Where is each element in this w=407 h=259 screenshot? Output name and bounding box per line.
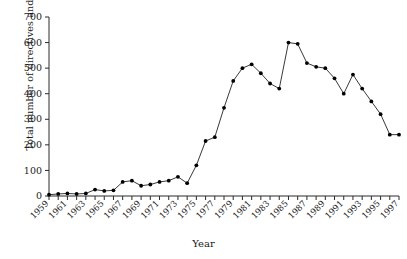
x-tick-label: 1983 — [249, 198, 271, 220]
x-tick-label: 1981 — [231, 198, 253, 220]
data-series-line — [49, 43, 399, 195]
data-point — [102, 189, 106, 193]
data-point — [397, 133, 401, 137]
data-point — [112, 188, 116, 192]
data-point — [121, 180, 125, 184]
data-point — [287, 41, 291, 45]
data-point — [333, 76, 337, 80]
data-series-markers — [47, 41, 401, 197]
x-tick-label: 1973 — [157, 198, 179, 220]
data-point — [277, 87, 281, 91]
data-point — [130, 179, 134, 183]
data-point — [185, 181, 189, 185]
x-tick-label: 1975 — [175, 198, 197, 220]
data-point — [93, 188, 97, 192]
x-tick-label: 1997 — [378, 198, 400, 220]
x-tick-label: 1991 — [323, 198, 345, 220]
x-tick-label: 1977 — [194, 198, 216, 220]
y-tick-label: 200 — [24, 139, 42, 150]
data-point — [342, 92, 346, 96]
x-tick-label: 1969 — [120, 198, 142, 220]
data-point — [213, 135, 217, 139]
y-tick-label: 600 — [24, 37, 42, 48]
x-tick-label: 1985 — [268, 198, 290, 220]
chart-figure: Total number of directives and regulatio… — [0, 0, 407, 259]
y-tick-label: 100 — [24, 165, 42, 176]
data-point — [314, 65, 318, 69]
data-point — [56, 192, 60, 196]
data-point — [250, 62, 254, 66]
data-point — [167, 179, 171, 183]
x-tick-label: 1967 — [102, 198, 124, 220]
x-tick-label: 1971 — [139, 198, 161, 220]
data-point — [388, 133, 392, 137]
data-point — [158, 180, 162, 184]
data-point — [194, 163, 198, 167]
data-point — [75, 192, 79, 196]
x-tick-label: 1965 — [83, 198, 105, 220]
data-point — [369, 99, 373, 103]
data-point — [323, 66, 327, 70]
data-point — [351, 73, 355, 77]
data-point — [139, 184, 143, 188]
data-point — [305, 61, 309, 65]
y-tick-label: 700 — [24, 11, 42, 22]
data-point — [176, 175, 180, 179]
x-tick-label: 1995 — [360, 198, 382, 220]
data-point — [360, 87, 364, 91]
data-point — [204, 139, 208, 143]
x-tick-label: 1959 — [28, 198, 50, 220]
data-point — [47, 193, 51, 197]
data-point — [379, 112, 383, 116]
y-axis-ticks: 0100200300400500600700 — [24, 11, 49, 201]
x-tick-label: 1989 — [304, 198, 326, 220]
data-point — [241, 66, 245, 70]
x-axis-ticks: 1959196119631965196719691971197319751977… — [28, 196, 400, 221]
x-tick-label: 1963 — [65, 198, 87, 220]
line-chart-svg: 0100200300400500600700 19591961196319651… — [0, 0, 407, 259]
x-tick-label: 1993 — [341, 198, 363, 220]
data-point — [66, 192, 70, 196]
x-tick-label: 1979 — [212, 198, 234, 220]
x-tick-label: 1961 — [46, 198, 68, 220]
x-tick-label: 1987 — [286, 198, 308, 220]
y-tick-label: 300 — [24, 113, 42, 124]
data-point — [259, 71, 263, 75]
y-tick-label: 400 — [24, 88, 42, 99]
data-point — [84, 192, 88, 196]
data-point — [268, 82, 272, 86]
data-point — [296, 42, 300, 46]
y-tick-label: 500 — [24, 62, 42, 73]
data-point — [222, 106, 226, 110]
data-point — [231, 79, 235, 83]
data-point — [148, 183, 152, 187]
